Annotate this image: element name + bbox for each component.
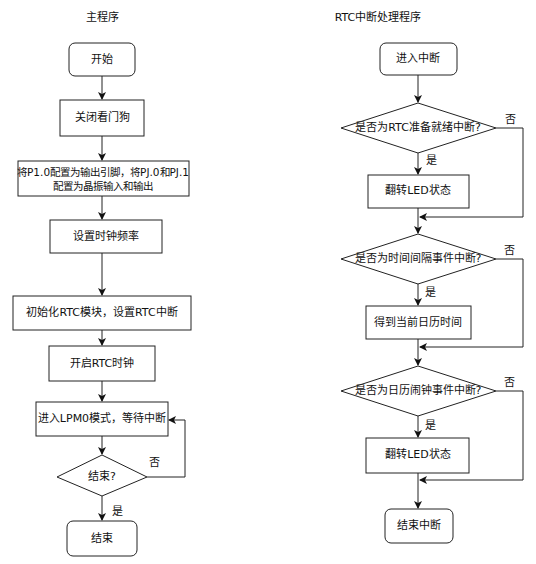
config-pins-label-1: 将P1.0配置为输出引脚，将PJ.0和PJ.1 — [17, 165, 189, 179]
toggle-led-2-label: 翻转LED状态 — [385, 448, 451, 462]
yes-label-1: 是 — [426, 154, 437, 168]
end-label: 结束 — [91, 532, 113, 546]
toggle-led-1-label: 翻转LED状态 — [385, 184, 451, 198]
isr-title: RTC中断处理程序 — [335, 11, 422, 25]
no-label-1: 否 — [505, 113, 516, 127]
disable-watchdog-label: 关闭看门狗 — [75, 111, 130, 125]
yes-label-2: 是 — [425, 286, 436, 300]
no-label-3: 否 — [504, 376, 515, 390]
no-label-2: 否 — [504, 244, 515, 258]
yes-label-3: 是 — [425, 419, 436, 433]
rtc-ready-label: 是否为RTC准备就绪中断? — [355, 121, 480, 135]
yes-label: 是 — [112, 505, 123, 519]
flowchart-canvas — [0, 0, 536, 564]
get-calendar-label: 得到当前日历时间 — [374, 316, 462, 330]
start-rtc-label: 开启RTC时钟 — [70, 357, 135, 371]
init-rtc-label: 初始化RTC模块，设置RTC中断 — [26, 306, 177, 320]
isr-exit-label: 结束中断 — [397, 519, 441, 533]
end-decision-label: 结束? — [88, 470, 116, 484]
set-clock-label: 设置时钟频率 — [73, 230, 139, 244]
no-label: 否 — [149, 456, 160, 470]
alarm-label: 是否为日历闹钟事件中断? — [355, 384, 482, 398]
isr-enter-label: 进入中断 — [396, 52, 440, 66]
start-label: 开始 — [91, 53, 113, 67]
interval-label: 是否为时间间隔事件中断? — [355, 252, 482, 266]
enter-lpm0-label: 进入LPM0模式，等待中断 — [38, 412, 166, 426]
config-pins-label-2: 配置为晶振输入和输出 — [53, 179, 153, 193]
main-title: 主程序 — [86, 11, 119, 25]
